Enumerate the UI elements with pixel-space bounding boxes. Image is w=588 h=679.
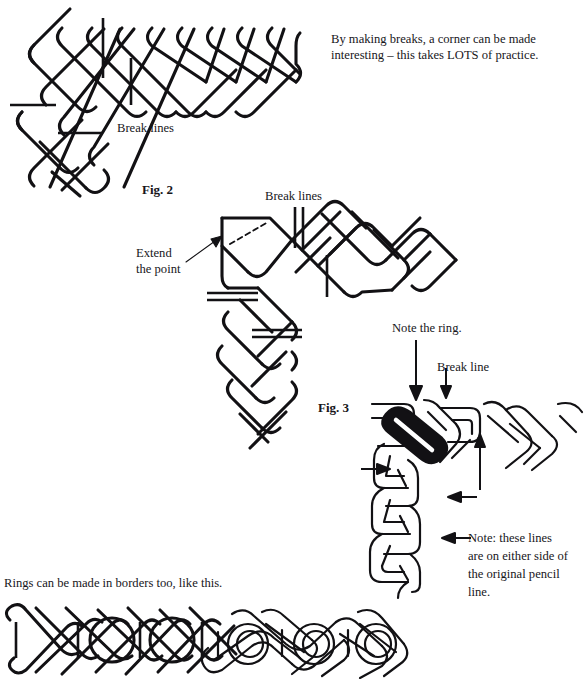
- knotwork-instruction-page: By making breaks, a corner can be made i…: [0, 0, 588, 679]
- border-strip-drawing: [0, 0, 588, 679]
